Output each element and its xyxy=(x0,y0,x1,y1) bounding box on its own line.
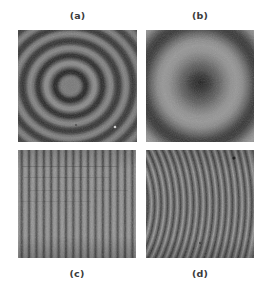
panel-c: (c) xyxy=(18,150,136,258)
panel-b-label: (b) xyxy=(146,10,254,22)
panel-d-image xyxy=(146,150,254,258)
panel-c-image xyxy=(18,150,136,258)
figure-interferogram-grid: (a) xyxy=(0,0,268,290)
panel-d: (d) xyxy=(146,150,254,258)
panel-a-image xyxy=(18,30,137,142)
panel-a-label: (a) xyxy=(18,10,137,22)
panel-c-label: (c) xyxy=(18,268,136,280)
panel-b: (b) xyxy=(146,30,254,142)
panel-b-image xyxy=(146,30,254,142)
panel-a: (a) xyxy=(18,30,137,142)
panel-d-label: (d) xyxy=(146,268,254,280)
